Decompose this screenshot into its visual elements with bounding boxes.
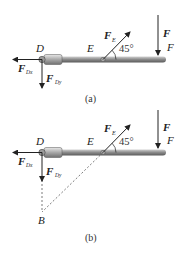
sleeve <box>44 55 62 65</box>
caption-b: (b) <box>85 232 97 244</box>
label-force-dy-sub: Dy <box>54 172 62 178</box>
label-force-e: F <box>103 29 112 41</box>
label-e: E <box>86 135 94 147</box>
label-force-dx: F <box>17 155 26 167</box>
label-b: B <box>38 214 45 226</box>
label-force-f: F <box>162 121 171 133</box>
label-force-dy-sub: Dy <box>54 79 62 85</box>
dashed-line-e-b <box>42 153 103 213</box>
angle-label: 45° <box>119 43 134 54</box>
label-force-f: F <box>162 27 171 39</box>
label-force-e: F <box>103 122 112 134</box>
label-force-dy: F <box>45 72 54 84</box>
sleeve <box>44 148 62 158</box>
free-body-diagrams: D E F F F E 45° F Dx F Dy (a) D E F F F … <box>0 0 184 253</box>
label-f-point: F <box>166 134 174 146</box>
label-force-e-sub: E <box>111 37 116 43</box>
label-force-dx-sub: Dx <box>25 162 33 168</box>
label-e: E <box>86 42 94 54</box>
figure-b: D E F F F E 45° F Dx F Dy B (b) <box>13 110 174 244</box>
label-force-dx-sub: Dx <box>25 69 33 75</box>
label-force-e-sub: E <box>111 130 116 136</box>
angle-label: 45° <box>119 136 134 147</box>
caption-a: (a) <box>85 93 96 105</box>
label-f-point: F <box>166 41 174 53</box>
label-force-dy: F <box>45 165 54 177</box>
label-force-dx: F <box>17 62 26 74</box>
figure-a: D E F F F E 45° F Dx F Dy (a) <box>13 15 174 105</box>
label-d: D <box>35 135 44 147</box>
label-d: D <box>35 42 44 54</box>
